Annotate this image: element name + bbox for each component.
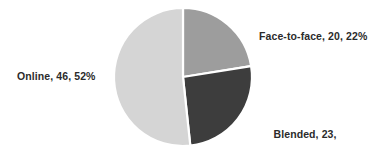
- pie-slice-online[interactable]: [114, 8, 190, 146]
- pie-slice-blended[interactable]: [183, 66, 252, 146]
- pie-slices-group: [114, 8, 252, 146]
- pie-label-face-to-face: Face-to-face, 20, 22%: [259, 30, 367, 43]
- pie-chart-figure: Face-to-face, 20, 22% Online, 46, 52% Bl…: [0, 0, 380, 154]
- pie-label-blended-line1: Blended, 23,: [274, 128, 337, 140]
- pie-label-online: Online, 46, 52%: [17, 70, 96, 83]
- pie-label-blended: Blended, 23, 26%: [261, 115, 337, 154]
